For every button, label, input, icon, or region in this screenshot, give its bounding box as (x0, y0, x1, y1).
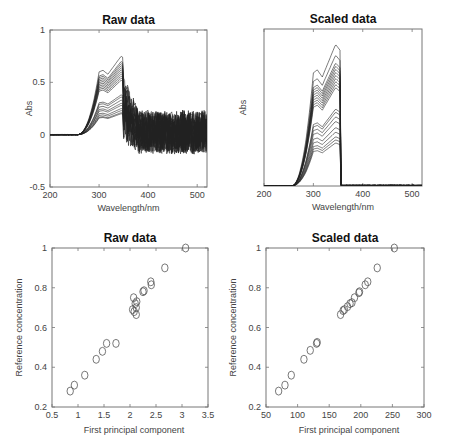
data-point (93, 355, 99, 363)
y-axis-label: Reference concentration (228, 278, 238, 376)
raw-scatter-plot: Raw dataFirst principal componentReferen… (14, 231, 214, 435)
y-tick-label: 0.6 (34, 323, 47, 333)
x-tick-label: 1 (75, 410, 80, 420)
data-point (307, 346, 313, 354)
x-axis-label: First principal component (84, 425, 185, 435)
y-tick-label: 0.8 (248, 283, 261, 293)
x-axis-label: Wavelength/nm (312, 202, 374, 212)
x-tick-label: 250 (385, 410, 400, 420)
x-tick-label: 200 (353, 410, 368, 420)
scaled-spectra-plot: Scaled dataWavelength/nmAbs200300400500 (238, 12, 422, 212)
y-axis-label: Reference concentration (14, 278, 24, 376)
scatter-points (67, 244, 189, 395)
x-tick-label: 300 (92, 190, 107, 200)
y-tick-label: 0.5 (32, 77, 45, 87)
x-tick-label: 2 (127, 410, 132, 420)
data-point (162, 264, 168, 272)
data-point (99, 347, 105, 355)
data-point (71, 381, 77, 389)
y-tick-label: 0.4 (34, 362, 47, 372)
x-tick-label: 3.5 (202, 410, 215, 420)
x-tick-label: 50 (261, 410, 271, 420)
y-tick-label: 0.2 (248, 402, 261, 412)
chart-title: Raw data (104, 231, 157, 245)
x-tick-label: 400 (141, 190, 156, 200)
scaled-scatter-plot: Scaled dataFirst principal componentRefe… (228, 231, 432, 435)
y-tick-label: 0.8 (34, 283, 47, 293)
spectra-lines (50, 57, 207, 155)
x-tick-label: 300 (416, 410, 431, 420)
y-tick-label: 0.4 (248, 362, 261, 372)
x-axis-label: First principal component (299, 425, 400, 435)
x-tick-label: 500 (190, 190, 205, 200)
x-tick-label: 500 (405, 189, 420, 199)
x-tick-label: 2.5 (150, 410, 163, 420)
x-tick-label: 100 (290, 410, 305, 420)
scatter-points (275, 244, 397, 395)
axes-box (52, 248, 208, 407)
data-point (288, 371, 294, 379)
axes-box (264, 29, 422, 186)
x-tick-label: 300 (306, 189, 321, 199)
y-axis-label: Abs (24, 100, 34, 116)
chart-title: Scaled data (312, 231, 379, 245)
data-point (374, 264, 380, 272)
axes-box (266, 248, 424, 407)
chart-title: Scaled data (310, 12, 377, 26)
x-tick-label: 200 (256, 189, 271, 199)
data-point (301, 355, 307, 363)
chart-title: Raw data (102, 13, 155, 27)
y-tick-label: 1 (40, 25, 45, 35)
data-point (282, 381, 288, 389)
y-axis-label: Abs (238, 99, 248, 115)
raw-spectra-plot: Raw dataWavelength/nmAbs200300400500-0.5… (24, 13, 207, 213)
data-point (103, 339, 109, 347)
spectra-lines (264, 45, 422, 186)
figure: Raw dataWavelength/nmAbs200300400500-0.5… (0, 0, 449, 448)
x-tick-label: 150 (322, 410, 337, 420)
y-tick-label: 1 (256, 243, 261, 253)
x-axis-label: Wavelength/nm (97, 203, 159, 213)
x-tick-label: 400 (355, 189, 370, 199)
data-point (82, 371, 88, 379)
x-tick-label: 0.5 (46, 410, 59, 420)
y-tick-label: 0 (40, 130, 45, 140)
y-tick-label: 0.2 (34, 402, 47, 412)
y-tick-label: 0.6 (248, 323, 261, 333)
data-point (113, 339, 119, 347)
x-tick-label: 1.5 (98, 410, 111, 420)
x-tick-label: 3 (179, 410, 184, 420)
y-tick-label: 1 (42, 243, 47, 253)
data-point (275, 387, 281, 395)
y-tick-label: -0.5 (29, 182, 45, 192)
